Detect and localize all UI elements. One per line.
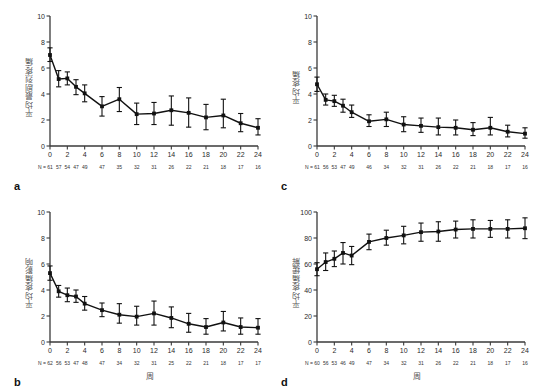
- n-row-value: 34: [117, 360, 123, 366]
- n-row-value: 60: [314, 360, 320, 366]
- panel-d-n-row: N =605653464947343231262221181716: [267, 360, 533, 370]
- svg-text:2: 2: [65, 151, 69, 158]
- n-row-value: 32: [401, 360, 407, 366]
- n-row-value: 26: [436, 360, 442, 366]
- n-row-value: 47: [73, 360, 79, 366]
- n-row-value: 17: [238, 360, 244, 366]
- n-row-value: 18: [221, 164, 227, 170]
- n-row-value: 31: [151, 164, 157, 170]
- svg-text:14: 14: [434, 347, 442, 354]
- n-row-value: 18: [488, 164, 494, 170]
- n-row-value: 22: [453, 164, 459, 170]
- n-row-value: 32: [134, 164, 140, 170]
- svg-text:6: 6: [41, 261, 45, 268]
- svg-text:20: 20: [219, 151, 227, 158]
- n-row-value: 49: [82, 164, 88, 170]
- n-row-value: 25: [169, 360, 175, 366]
- svg-text:22: 22: [504, 347, 512, 354]
- svg-text:8: 8: [41, 235, 45, 242]
- svg-text:14: 14: [434, 151, 442, 158]
- n-row-value: 61: [314, 164, 320, 170]
- svg-text:14: 14: [167, 151, 175, 158]
- svg-text:0: 0: [308, 339, 312, 346]
- svg-text:24: 24: [254, 151, 262, 158]
- n-row-value: 47: [73, 164, 79, 170]
- svg-text:6: 6: [367, 347, 371, 354]
- svg-text:80: 80: [304, 235, 312, 242]
- n-row-value: 49: [349, 360, 355, 366]
- n-row-value: 57: [56, 164, 62, 170]
- panel-a: 平均最剧烈疼痛 a 0246810024681012141618202224 N…: [0, 0, 266, 196]
- n-row-value: 56: [56, 360, 62, 366]
- figure-four-panel-pain-outcomes: 平均最剧烈疼痛 a 0246810024681012141618202224 N…: [0, 0, 533, 392]
- svg-text:2: 2: [65, 347, 69, 354]
- n-row-value: 26: [436, 164, 442, 170]
- n-row-value: 54: [65, 164, 71, 170]
- n-row-value: 17: [255, 360, 261, 366]
- svg-text:22: 22: [504, 151, 512, 158]
- svg-text:10: 10: [133, 151, 141, 158]
- n-row-value: 61: [47, 164, 53, 170]
- svg-text:10: 10: [400, 347, 408, 354]
- panel-d-y-axis-label: 平均疼痛缓解: [291, 238, 302, 328]
- svg-text:10: 10: [304, 13, 312, 20]
- n-row-value: 17: [505, 360, 511, 366]
- svg-text:20: 20: [486, 347, 494, 354]
- n-row-value: 31: [418, 360, 424, 366]
- panel-d-letter: d: [281, 376, 288, 388]
- n-row-prefix: N =: [38, 164, 46, 170]
- n-row-value: 62: [47, 360, 53, 366]
- svg-text:10: 10: [37, 13, 45, 20]
- panel-a-n-row: N =615754474947353231262221181716: [0, 164, 266, 174]
- n-row-value: 53: [332, 164, 338, 170]
- panel-b: 平均疼痛影响 b 0246810024681012141618202224 N …: [0, 196, 266, 392]
- svg-text:20: 20: [304, 313, 312, 320]
- svg-text:0: 0: [48, 151, 52, 158]
- n-row-value: 47: [340, 164, 346, 170]
- svg-text:20: 20: [219, 347, 227, 354]
- n-row-value: 32: [134, 360, 140, 366]
- panel-a-y-axis-label: 平均最剧烈疼痛: [24, 42, 35, 132]
- n-row-value: 47: [99, 360, 105, 366]
- svg-text:0: 0: [41, 143, 45, 150]
- panel-d-x-axis-label: 周: [413, 370, 421, 381]
- svg-text:60: 60: [304, 261, 312, 268]
- n-row-value: 35: [117, 164, 123, 170]
- svg-text:0: 0: [315, 347, 319, 354]
- svg-text:8: 8: [117, 151, 121, 158]
- svg-text:16: 16: [185, 151, 193, 158]
- n-row-value: 18: [488, 360, 494, 366]
- n-row-value: 47: [366, 360, 372, 366]
- svg-text:4: 4: [350, 347, 354, 354]
- n-row-value: 31: [151, 360, 157, 366]
- svg-text:16: 16: [452, 151, 460, 158]
- n-row-value: 17: [505, 164, 511, 170]
- n-row-value: 22: [186, 360, 192, 366]
- panel-c-n-row: N =615653474946343231262221181716: [267, 164, 533, 174]
- svg-text:18: 18: [469, 151, 477, 158]
- svg-text:2: 2: [308, 117, 312, 124]
- svg-text:18: 18: [202, 151, 210, 158]
- svg-text:2: 2: [41, 313, 45, 320]
- n-row-value: 34: [384, 164, 390, 170]
- panel-c: 平均疼痛 c 0246810024681012141618202224 N =6…: [267, 0, 533, 196]
- n-row-value: 21: [470, 164, 476, 170]
- n-row-value: 21: [470, 360, 476, 366]
- n-row-value: 46: [340, 360, 346, 366]
- svg-text:6: 6: [41, 65, 45, 72]
- n-row-value: 56: [323, 360, 329, 366]
- svg-text:10: 10: [400, 151, 408, 158]
- n-row-value: 26: [169, 164, 175, 170]
- n-row-value: 53: [65, 360, 71, 366]
- svg-text:0: 0: [48, 347, 52, 354]
- svg-text:20: 20: [486, 151, 494, 158]
- n-row-value: 16: [522, 360, 528, 366]
- svg-text:12: 12: [417, 151, 425, 158]
- n-row-value: 46: [366, 164, 372, 170]
- svg-text:6: 6: [100, 151, 104, 158]
- svg-text:6: 6: [308, 65, 312, 72]
- svg-text:10: 10: [37, 209, 45, 216]
- panel-b-n-row: N =625653474847343231252221181717: [0, 360, 266, 370]
- svg-text:100: 100: [300, 209, 312, 216]
- svg-text:18: 18: [202, 347, 210, 354]
